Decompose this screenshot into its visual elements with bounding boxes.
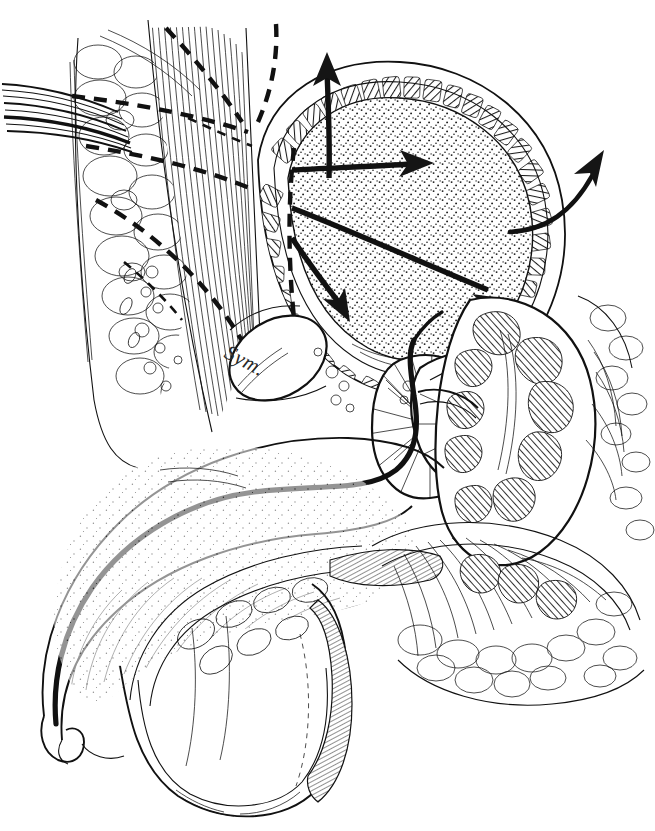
anatomical-figure: Sym. <box>0 0 655 831</box>
illustration-canvas <box>0 0 655 831</box>
bulbar-hatch <box>330 550 443 586</box>
